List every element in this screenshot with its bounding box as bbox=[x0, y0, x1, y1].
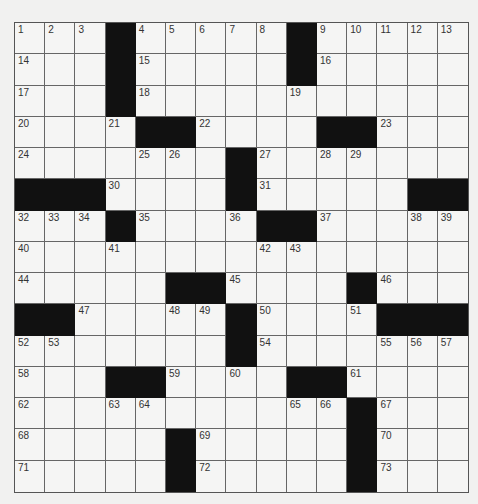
grid-cell[interactable] bbox=[287, 117, 317, 148]
grid-cell[interactable] bbox=[287, 273, 317, 304]
grid-cell[interactable]: 13 bbox=[438, 23, 468, 54]
grid-cell[interactable]: 44 bbox=[15, 273, 45, 304]
grid-cell[interactable] bbox=[75, 54, 105, 85]
grid-cell[interactable] bbox=[438, 367, 468, 398]
grid-cell[interactable]: 8 bbox=[257, 23, 287, 54]
grid-cell[interactable] bbox=[45, 273, 75, 304]
grid-cell[interactable]: 2 bbox=[45, 23, 75, 54]
grid-cell[interactable]: 25 bbox=[136, 148, 166, 179]
grid-cell[interactable] bbox=[226, 242, 256, 273]
grid-cell[interactable] bbox=[136, 336, 166, 367]
grid-cell[interactable]: 15 bbox=[136, 54, 166, 85]
grid-cell[interactable]: 72 bbox=[196, 461, 226, 492]
grid-cell[interactable] bbox=[408, 461, 438, 492]
grid-cell[interactable] bbox=[75, 336, 105, 367]
grid-cell[interactable] bbox=[257, 273, 287, 304]
grid-cell[interactable]: 23 bbox=[377, 117, 407, 148]
grid-cell[interactable] bbox=[136, 461, 166, 492]
grid-cell[interactable]: 57 bbox=[438, 336, 468, 367]
grid-cell[interactable] bbox=[317, 242, 347, 273]
grid-cell[interactable] bbox=[45, 242, 75, 273]
grid-cell[interactable] bbox=[136, 273, 166, 304]
grid-cell[interactable] bbox=[75, 242, 105, 273]
grid-cell[interactable] bbox=[377, 211, 407, 242]
grid-cell[interactable]: 49 bbox=[196, 304, 226, 335]
grid-cell[interactable] bbox=[438, 54, 468, 85]
grid-cell[interactable]: 14 bbox=[15, 54, 45, 85]
grid-cell[interactable] bbox=[317, 273, 347, 304]
grid-cell[interactable] bbox=[136, 242, 166, 273]
grid-cell[interactable]: 56 bbox=[408, 336, 438, 367]
grid-cell[interactable] bbox=[136, 429, 166, 460]
grid-cell[interactable] bbox=[106, 461, 136, 492]
grid-cell[interactable] bbox=[166, 211, 196, 242]
grid-cell[interactable] bbox=[45, 429, 75, 460]
grid-cell[interactable]: 59 bbox=[166, 367, 196, 398]
grid-cell[interactable] bbox=[196, 211, 226, 242]
grid-cell[interactable] bbox=[196, 336, 226, 367]
grid-cell[interactable] bbox=[408, 273, 438, 304]
grid-cell[interactable]: 4 bbox=[136, 23, 166, 54]
grid-cell[interactable] bbox=[287, 336, 317, 367]
grid-cell[interactable] bbox=[196, 148, 226, 179]
grid-cell[interactable]: 46 bbox=[377, 273, 407, 304]
grid-cell[interactable] bbox=[196, 398, 226, 429]
grid-cell[interactable] bbox=[166, 242, 196, 273]
grid-cell[interactable] bbox=[408, 398, 438, 429]
grid-cell[interactable]: 64 bbox=[136, 398, 166, 429]
grid-cell[interactable]: 68 bbox=[15, 429, 45, 460]
grid-cell[interactable]: 61 bbox=[347, 367, 377, 398]
grid-cell[interactable] bbox=[377, 54, 407, 85]
grid-cell[interactable] bbox=[75, 117, 105, 148]
grid-cell[interactable] bbox=[377, 148, 407, 179]
grid-cell[interactable] bbox=[226, 461, 256, 492]
grid-cell[interactable] bbox=[136, 179, 166, 210]
grid-cell[interactable]: 62 bbox=[15, 398, 45, 429]
grid-cell[interactable]: 43 bbox=[287, 242, 317, 273]
grid-cell[interactable] bbox=[166, 86, 196, 117]
grid-cell[interactable] bbox=[438, 242, 468, 273]
grid-cell[interactable] bbox=[347, 242, 377, 273]
grid-cell[interactable] bbox=[226, 54, 256, 85]
grid-cell[interactable] bbox=[45, 398, 75, 429]
grid-cell[interactable]: 6 bbox=[196, 23, 226, 54]
grid-cell[interactable]: 19 bbox=[287, 86, 317, 117]
grid-cell[interactable]: 40 bbox=[15, 242, 45, 273]
grid-cell[interactable]: 37 bbox=[317, 211, 347, 242]
grid-cell[interactable] bbox=[75, 367, 105, 398]
grid-cell[interactable] bbox=[347, 179, 377, 210]
grid-cell[interactable] bbox=[166, 336, 196, 367]
grid-cell[interactable]: 71 bbox=[15, 461, 45, 492]
grid-cell[interactable]: 58 bbox=[15, 367, 45, 398]
grid-cell[interactable]: 18 bbox=[136, 86, 166, 117]
grid-cell[interactable] bbox=[408, 54, 438, 85]
grid-cell[interactable] bbox=[408, 429, 438, 460]
grid-cell[interactable] bbox=[75, 148, 105, 179]
grid-cell[interactable]: 9 bbox=[317, 23, 347, 54]
grid-cell[interactable] bbox=[257, 367, 287, 398]
grid-cell[interactable]: 65 bbox=[287, 398, 317, 429]
grid-cell[interactable]: 3 bbox=[75, 23, 105, 54]
grid-cell[interactable]: 60 bbox=[226, 367, 256, 398]
grid-cell[interactable] bbox=[106, 336, 136, 367]
grid-cell[interactable]: 27 bbox=[257, 148, 287, 179]
grid-cell[interactable] bbox=[45, 117, 75, 148]
grid-cell[interactable]: 26 bbox=[166, 148, 196, 179]
grid-cell[interactable] bbox=[317, 304, 347, 335]
grid-cell[interactable] bbox=[317, 179, 347, 210]
grid-cell[interactable] bbox=[408, 86, 438, 117]
grid-cell[interactable] bbox=[438, 148, 468, 179]
grid-cell[interactable] bbox=[196, 367, 226, 398]
grid-cell[interactable] bbox=[347, 86, 377, 117]
grid-cell[interactable] bbox=[438, 429, 468, 460]
grid-cell[interactable] bbox=[45, 461, 75, 492]
grid-cell[interactable] bbox=[166, 54, 196, 85]
grid-cell[interactable] bbox=[106, 429, 136, 460]
grid-cell[interactable]: 45 bbox=[226, 273, 256, 304]
grid-cell[interactable] bbox=[438, 273, 468, 304]
grid-cell[interactable] bbox=[226, 398, 256, 429]
grid-cell[interactable]: 69 bbox=[196, 429, 226, 460]
grid-cell[interactable] bbox=[136, 304, 166, 335]
grid-cell[interactable]: 33 bbox=[45, 211, 75, 242]
grid-cell[interactable] bbox=[317, 429, 347, 460]
